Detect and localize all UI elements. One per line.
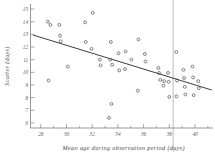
y-tick-label: 14 [23,19,29,25]
data-point [99,64,102,67]
data-point [184,93,187,96]
data-point [58,23,61,26]
data-point [157,66,160,69]
data-point [191,65,194,68]
y-tick-label: 15 [23,6,29,12]
y-tick-label: 13 [23,31,29,37]
data-point [144,60,147,63]
data-points [46,11,200,119]
data-point [110,103,113,106]
y-tick-label: 12 [23,44,29,50]
data-point [118,69,121,72]
chart-canvas: 28303234363840 6789101112131415 Mean age… [0,0,215,158]
data-point [59,40,62,43]
x-tick-label: 38 [167,131,173,137]
data-point [84,41,87,44]
regression-fit-line [33,35,212,90]
data-point [49,23,52,26]
data-point [98,58,101,61]
data-point [124,68,127,71]
data-point [182,68,185,71]
x-tick-label: 40 [192,131,198,137]
data-point [167,80,170,83]
data-point [109,41,112,44]
data-point [183,77,186,80]
data-point [107,116,110,119]
y-tick-label: 10 [23,69,29,75]
data-point [91,11,94,14]
x-tick-label: 32 [90,131,96,137]
x-tick-label: 28 [38,131,44,137]
data-point [84,21,87,24]
x-axis-ticks [41,124,208,128]
data-point [111,63,114,66]
data-point [175,51,178,54]
x-tick-label: 36 [141,131,147,137]
x-axis-title: Mean age during observation period (days… [62,144,185,152]
data-point [168,96,171,99]
data-point [197,80,200,83]
y-tick-labels: 6789101112131415 [23,6,29,126]
data-point [117,52,120,55]
data-point [90,47,93,50]
data-point [130,58,133,61]
data-point [59,34,62,37]
y-tick-label: 11 [23,57,28,63]
data-point [143,53,146,56]
data-point [124,50,127,53]
x-tick-label: 30 [64,131,70,137]
data-point [192,94,195,97]
y-tick-label: 8 [25,95,28,101]
data-point [159,78,162,81]
y-tick-label: 6 [25,120,28,126]
data-point [183,85,186,88]
data-point [46,20,49,23]
data-point [137,38,140,41]
x-tick-labels: 28303234363840 [38,131,198,137]
y-axis-ticks [31,9,35,123]
data-point [136,89,139,92]
data-point [66,65,69,68]
data-point [162,84,165,87]
data-point [175,95,178,98]
data-point [197,87,200,90]
scatter-plot-figure: 28303234363840 6789101112131415 Mean age… [0,0,215,158]
data-point [167,72,170,75]
data-point [163,80,166,83]
y-axis-title: Scatter (days) [3,46,11,85]
data-point [47,79,50,82]
x-tick-label: 34 [115,131,121,137]
data-point [192,76,195,79]
y-tick-label: 9 [25,82,28,88]
y-tick-label: 7 [25,107,28,113]
